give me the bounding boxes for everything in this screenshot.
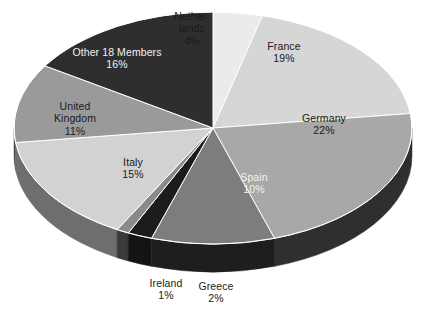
slice-name-ireland: Ireland <box>139 277 193 289</box>
slice-label-united-kingdom: United Kingdom 11% <box>33 100 117 137</box>
slice-value-other-18-members: 16% <box>56 58 178 70</box>
slice-name-spain: Spain <box>222 171 286 183</box>
slice-value-united-kingdom: 11% <box>33 125 117 137</box>
slice-label-netherlands: Nether- lands 4% <box>160 10 224 47</box>
slice-label-other-18-members: Other 18 Members 16% <box>56 46 178 71</box>
slice-name-netherlands-cont: lands <box>160 22 224 34</box>
slice-label-italy: Italy 15% <box>103 156 163 181</box>
slice-label-germany: Germany 22% <box>281 112 367 137</box>
slice-value-greece: 2% <box>187 292 245 304</box>
slice-name-united-kingdom: United <box>33 100 117 112</box>
slice-label-spain: Spain 10% <box>222 171 286 196</box>
slice-value-italy: 15% <box>103 168 163 180</box>
slice-value-spain: 10% <box>222 183 286 195</box>
pie-chart-figure: Nether- lands 4% France 19% Germany 22% … <box>0 0 432 320</box>
slice-value-france: 19% <box>245 52 323 64</box>
slice-name-france: France <box>245 40 323 52</box>
slice-name-greece: Greece <box>187 280 245 292</box>
slice-label-greece: Greece 2% <box>187 280 245 305</box>
slice-name-germany: Germany <box>281 112 367 124</box>
slice-name-italy: Italy <box>103 156 163 168</box>
slice-label-france: France 19% <box>245 40 323 65</box>
slice-value-germany: 22% <box>281 124 367 136</box>
slice-name-other-18-members: Other 18 Members <box>56 46 178 58</box>
slice-name-netherlands: Nether- <box>160 10 224 22</box>
slice-label-ireland: Ireland 1% <box>139 277 193 302</box>
slice-value-ireland: 1% <box>139 289 193 301</box>
pie-side-ireland <box>117 230 128 261</box>
slice-name-united-kingdom-cont: Kingdom <box>33 112 117 124</box>
